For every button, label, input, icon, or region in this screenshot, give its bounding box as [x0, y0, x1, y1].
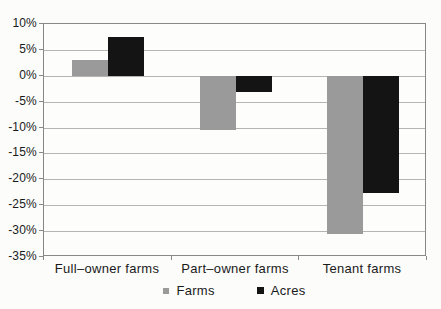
bar-acres-2: [236, 76, 272, 92]
legend: FarmsAcres: [43, 283, 426, 298]
y-tick-mark: [39, 127, 43, 128]
y-tick-mark: [39, 230, 43, 231]
category-label: Tenant farms: [298, 262, 426, 276]
legend-item-acres: Acres: [257, 283, 306, 298]
y-tick-label: 10%: [0, 17, 37, 29]
y-tick-label: -15%: [0, 146, 37, 158]
gridline: [44, 205, 425, 206]
legend-label: Farms: [176, 283, 214, 298]
gridline: [44, 231, 425, 232]
x-tick-mark: [426, 256, 427, 260]
y-tick-label: -30%: [0, 224, 37, 236]
category-label: Full–owner farms: [43, 262, 171, 276]
y-tick-label: -10%: [0, 121, 37, 133]
bar-acres-3: [363, 76, 399, 193]
plot-area: [43, 23, 426, 256]
y-tick-label: -25%: [0, 198, 37, 210]
y-tick-label: 0%: [0, 69, 37, 81]
legend-swatch-farms: [163, 288, 169, 294]
legend-swatch-acres: [257, 287, 264, 294]
bar-farms-2: [200, 76, 236, 130]
x-tick-mark: [43, 256, 44, 260]
y-tick-label: 5%: [0, 43, 37, 55]
y-tick-label: -20%: [0, 172, 37, 184]
bar-farms-1: [72, 60, 108, 76]
x-tick-mark: [298, 256, 299, 260]
y-tick-mark: [39, 49, 43, 50]
bar-acres-1: [108, 37, 144, 76]
y-tick-mark: [39, 23, 43, 24]
legend-label: Acres: [271, 283, 306, 298]
legend-item-farms: Farms: [163, 283, 214, 298]
grouped-bar-chart: 10%5%0%-5%-10%-15%-20%-25%-30%-35% Full–…: [0, 0, 441, 309]
y-tick-mark: [39, 152, 43, 153]
y-tick-mark: [39, 204, 43, 205]
y-tick-mark: [39, 101, 43, 102]
bar-farms-3: [327, 76, 363, 234]
y-tick-label: -35%: [0, 250, 37, 262]
category-label: Part–owner farms: [171, 262, 299, 276]
y-tick-mark: [39, 75, 43, 76]
y-tick-mark: [39, 178, 43, 179]
x-tick-mark: [171, 256, 172, 260]
gridline: [44, 50, 425, 51]
y-tick-label: -5%: [0, 95, 37, 107]
